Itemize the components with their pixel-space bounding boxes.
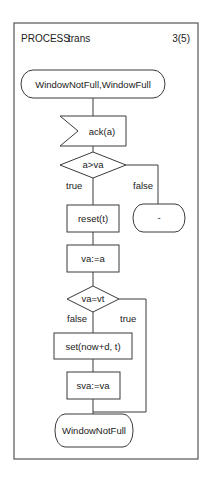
process-keyword: PROCESS	[21, 33, 70, 44]
end-state-label: WindowNotFull	[62, 425, 126, 436]
task-reset-label: reset(t)	[78, 213, 108, 224]
decision2-label: va=vt	[82, 293, 105, 304]
task-set-label: set(now+d, t)	[65, 341, 120, 352]
page-number: 3(5)	[172, 33, 190, 44]
process-name: trans	[68, 33, 90, 44]
dash-state-label: -	[157, 212, 160, 223]
decision1-true-label: true	[66, 180, 82, 191]
decision2-false-label: false	[67, 313, 87, 324]
input-signal-label: ack(a)	[89, 126, 115, 137]
decision1-false-label: false	[133, 180, 153, 191]
decision1-label: a>va	[83, 159, 105, 170]
sdl-process-diagram: PROCESS trans 3(5) WindowNotFull,WindowF…	[0, 0, 209, 483]
task-assign-va-label: va:=a	[81, 253, 105, 264]
decision2-true-label: true	[120, 313, 136, 324]
start-state-label: WindowNotFull,WindowFull	[35, 79, 151, 90]
task-assign-sva-label: sva:=va	[76, 380, 110, 391]
